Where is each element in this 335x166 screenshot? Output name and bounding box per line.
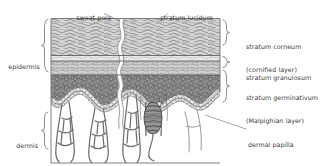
label-dermal-papilla-line1: dermal papilla xyxy=(248,141,294,149)
label-sweat-pore: sweat pore xyxy=(68,6,112,29)
label-stratum-germinativum-line1: stratum germinativum xyxy=(246,94,318,102)
skin-cross-section-diagram: epidermis dermis sweat pore stratum luci… xyxy=(0,0,335,166)
label-dermal-papilla: dermal papilla xyxy=(248,126,294,164)
label-epidermis-text: epidermis xyxy=(8,63,40,70)
label-stratum-germinativum-line2: (Malpighian layer) xyxy=(246,117,318,125)
stratum-granulosum-layer xyxy=(48,61,224,75)
label-epidermis: epidermis xyxy=(0,55,38,78)
label-sweat-pore-text: sweat pore xyxy=(76,14,111,21)
stratum-lucidum-layer xyxy=(48,56,224,62)
label-stratum-lucidum: stratum lucidum xyxy=(152,6,213,29)
label-stratum-corneum-line1: stratum corneum xyxy=(246,43,301,51)
label-stratum-lucidum-text: stratum lucidum xyxy=(160,14,213,21)
label-dermis: dermis xyxy=(0,134,38,157)
label-dermis-text: dermis xyxy=(16,142,38,149)
